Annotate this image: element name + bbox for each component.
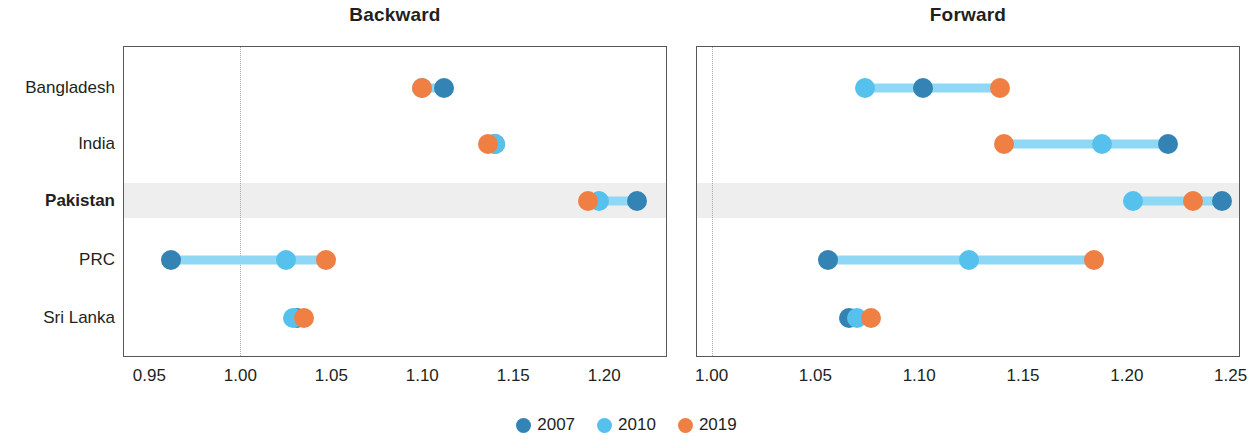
data-point-forward-bangladesh-2007 [913, 78, 933, 98]
legend-swatch-icon-2010 [597, 418, 612, 433]
x-tick-label-forward-2: 1.10 [903, 366, 936, 386]
x-tick-label-backward-4: 1.15 [497, 366, 530, 386]
x-tick-label-forward-1: 1.05 [799, 366, 832, 386]
legend-label-2010: 2010 [618, 415, 656, 435]
data-point-backward-prc-2007 [161, 250, 181, 270]
data-point-backward-pakistan-2007 [627, 191, 647, 211]
y-axis-label-india: India [78, 134, 115, 154]
connector-forward-india [1004, 140, 1168, 149]
data-point-forward-prc-2007 [818, 250, 838, 270]
reference-line-1-00 [712, 47, 713, 356]
data-point-forward-pakistan-2007 [1212, 191, 1232, 211]
y-axis-label-bangladesh: Bangladesh [25, 78, 115, 98]
chart-legend: 200720102019 [0, 415, 1253, 435]
data-point-forward-india-2019 [994, 134, 1014, 154]
data-point-backward-bangladesh-2007 [434, 78, 454, 98]
x-tick-label-backward-3: 1.10 [406, 366, 439, 386]
data-point-forward-pakistan-2010 [1123, 191, 1143, 211]
legend-item-2007[interactable]: 2007 [516, 415, 575, 435]
panel-title-forward: Forward [696, 4, 1240, 26]
data-point-forward-india-2007 [1158, 134, 1178, 154]
x-tick-label-backward-2: 1.05 [315, 366, 348, 386]
data-point-backward-prc-2010 [276, 250, 296, 270]
data-point-forward-prc-2010 [959, 250, 979, 270]
data-point-forward-bangladesh-2010 [855, 78, 875, 98]
data-point-forward-sri-lanka-2019 [861, 308, 881, 328]
legend-label-2007: 2007 [537, 415, 575, 435]
data-point-backward-sri-lanka-2019 [294, 308, 314, 328]
data-point-forward-pakistan-2019 [1183, 191, 1203, 211]
legend-swatch-icon-2019 [678, 418, 693, 433]
legend-item-2019[interactable]: 2019 [678, 415, 737, 435]
y-axis-label-pakistan: Pakistan [45, 191, 115, 211]
reference-line-1-00 [240, 47, 241, 356]
data-point-backward-prc-2019 [316, 250, 336, 270]
x-tick-label-backward-0: 0.95 [133, 366, 166, 386]
data-point-forward-prc-2019 [1084, 250, 1104, 270]
connector-forward-pakistan [1133, 197, 1222, 206]
data-point-forward-bangladesh-2019 [990, 78, 1010, 98]
data-point-backward-india-2019 [478, 134, 498, 154]
y-axis-label-sri-lanka: Sri Lanka [43, 308, 115, 328]
legend-swatch-icon-2007 [516, 418, 531, 433]
x-tick-label-backward-1: 1.00 [224, 366, 257, 386]
data-point-backward-pakistan-2019 [578, 191, 598, 211]
x-tick-label-backward-5: 1.20 [588, 366, 621, 386]
x-tick-label-forward-5: 1.25 [1214, 366, 1247, 386]
panel-title-backward: Backward [123, 4, 667, 26]
dumbbell-chart-figure: Backward0.951.001.051.101.151.20Forward1… [0, 0, 1253, 441]
x-tick-label-forward-4: 1.20 [1110, 366, 1143, 386]
data-point-backward-bangladesh-2019 [412, 78, 432, 98]
y-axis-label-prc: PRC [79, 250, 115, 270]
connector-backward-prc [171, 256, 326, 265]
legend-label-2019: 2019 [699, 415, 737, 435]
x-tick-label-forward-0: 1.00 [695, 366, 728, 386]
x-tick-label-forward-3: 1.15 [1006, 366, 1039, 386]
data-point-forward-india-2010 [1092, 134, 1112, 154]
legend-item-2010[interactable]: 2010 [597, 415, 656, 435]
